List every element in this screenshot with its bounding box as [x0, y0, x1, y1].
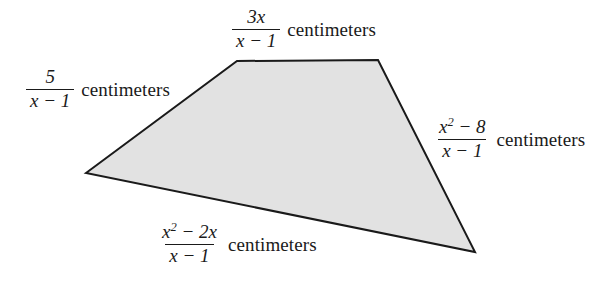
fraction-left-denominator: x − 1: [26, 89, 74, 112]
fraction-top-denominator: x − 1: [232, 29, 280, 52]
fraction-right: x2 − 8 x − 1: [435, 117, 490, 161]
fraction-left: 5 x − 1: [26, 67, 74, 111]
fraction-top: 3x x − 1: [232, 7, 280, 51]
unit-label-bottom: centimeters: [228, 235, 317, 254]
side-label-left: 5 x − 1 centimeters: [26, 67, 170, 111]
fraction-right-numerator-tail: − 8: [454, 116, 486, 137]
fraction-top-numerator: 3x: [243, 7, 269, 29]
fraction-right-numerator: x2 − 8: [435, 117, 490, 139]
figure-canvas: 3x x − 1 centimeters 5 x − 1 centimeters…: [0, 0, 613, 287]
side-label-top: 3x x − 1 centimeters: [232, 7, 376, 51]
unit-label-right: centimeters: [497, 130, 586, 149]
fraction-bottom-numerator: x2 − 2x: [158, 222, 221, 244]
unit-label-top: centimeters: [287, 20, 376, 39]
fraction-bottom: x2 − 2x x − 1: [158, 222, 221, 266]
fraction-left-numerator: 5: [41, 67, 59, 89]
side-label-bottom: x2 − 2x x − 1 centimeters: [158, 222, 317, 266]
fraction-bottom-denominator: x − 1: [165, 244, 213, 267]
fraction-right-denominator: x − 1: [438, 139, 486, 162]
unit-label-left: centimeters: [81, 80, 170, 99]
fraction-bottom-numerator-tail: − 2x: [177, 221, 217, 242]
side-label-right: x2 − 8 x − 1 centimeters: [435, 117, 585, 161]
